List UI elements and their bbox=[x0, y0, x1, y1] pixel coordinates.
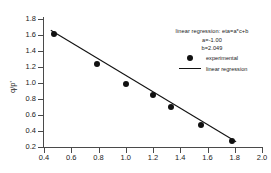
legend-marker-line-icon bbox=[176, 68, 204, 69]
x-tick-label: 1.0 bbox=[121, 154, 131, 162]
y-tick-mark bbox=[38, 99, 43, 100]
y-tick-label: 1.6 bbox=[26, 31, 36, 39]
y-tick-mark bbox=[38, 83, 43, 84]
data-point bbox=[198, 122, 204, 128]
legend-item-experimental: experimental bbox=[176, 52, 266, 63]
y-tick-label: 0.6 bbox=[26, 111, 36, 119]
y-tick-label: 1.0 bbox=[26, 79, 36, 87]
regression-annotation: linear regression: eta=a*c+b a=-1.00 b=2… bbox=[160, 27, 264, 53]
regression-slope: a=-1.00 bbox=[160, 36, 264, 45]
x-tick-label: 2.0 bbox=[257, 154, 267, 162]
y-tick-mark bbox=[38, 19, 43, 20]
x-tick-label: 1.8 bbox=[230, 154, 240, 162]
legend-marker-circle-icon bbox=[176, 55, 204, 61]
y-tick-mark bbox=[38, 51, 43, 52]
data-point bbox=[94, 61, 100, 67]
data-point bbox=[150, 92, 156, 98]
legend-label-experimental: experimental bbox=[204, 55, 238, 61]
chart-legend: experimental linear regression bbox=[176, 52, 266, 74]
y-tick-label: 0.2 bbox=[26, 143, 36, 151]
x-tick-label: 1.4 bbox=[175, 154, 185, 162]
data-point bbox=[229, 138, 235, 144]
y-axis-title: q/p' bbox=[8, 81, 17, 93]
y-tick-label: 1.2 bbox=[26, 63, 36, 71]
data-point bbox=[51, 31, 57, 37]
legend-label-linear-regression: linear regression bbox=[204, 66, 247, 72]
x-tick-label: 0.4 bbox=[39, 154, 49, 162]
y-tick-label: 1.8 bbox=[26, 15, 36, 23]
x-tick-label: 0.6 bbox=[66, 154, 76, 162]
x-tick-label: 1.6 bbox=[202, 154, 212, 162]
y-tick-mark bbox=[38, 67, 43, 68]
legend-item-linear-regression: linear regression bbox=[176, 63, 266, 74]
data-point bbox=[168, 104, 174, 110]
x-tick-label: 1.2 bbox=[148, 154, 158, 162]
data-point bbox=[123, 81, 129, 87]
chart-figure: q/p' 0.20.40.60.81.01.21.41.61.8 0.40.60… bbox=[0, 0, 271, 173]
x-tick-label: 0.8 bbox=[93, 154, 103, 162]
y-tick-mark bbox=[38, 35, 43, 36]
y-tick-mark bbox=[38, 147, 43, 148]
y-tick-label: 1.4 bbox=[26, 47, 36, 55]
y-tick-mark bbox=[38, 115, 43, 116]
regression-equation: linear regression: eta=a*c+b bbox=[160, 27, 264, 36]
y-tick-mark bbox=[38, 131, 43, 132]
y-tick-label: 0.8 bbox=[26, 95, 36, 103]
y-tick-label: 0.4 bbox=[26, 127, 36, 135]
